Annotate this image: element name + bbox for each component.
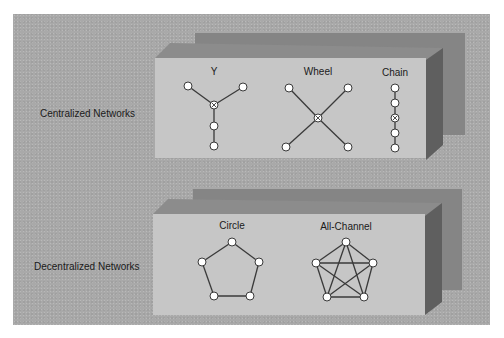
network-node (323, 293, 331, 301)
network-node (391, 84, 399, 92)
group-label-decentralized: Decentralized Networks (34, 261, 140, 272)
network-title-chain: Chain (382, 67, 408, 78)
network-node (391, 99, 399, 107)
network-node (210, 292, 218, 300)
network-node (282, 143, 290, 151)
centralized-box-side (426, 48, 443, 160)
network-node (198, 258, 206, 266)
network-node (210, 122, 218, 130)
decentralized-box-side (425, 203, 442, 315)
network-node (239, 83, 247, 91)
decentralized-box (153, 189, 462, 315)
network-node (312, 259, 320, 267)
network-node (369, 259, 377, 267)
network-node (391, 144, 399, 152)
network-node (342, 238, 350, 246)
network-title-wheel: Wheel (304, 66, 332, 77)
network-node (228, 238, 236, 246)
network-title-all-channel: All-Channel (320, 221, 372, 232)
network-node (184, 82, 192, 90)
group-label-centralized: Centralized Networks (40, 108, 135, 119)
network-title-y: Y (211, 66, 218, 77)
network-node (285, 84, 293, 92)
decentralized-box-front (153, 214, 425, 315)
network-node (246, 292, 254, 300)
network-node (255, 258, 263, 266)
network-title-circle: Circle (219, 220, 245, 231)
network-node (391, 129, 399, 137)
network-node (344, 84, 352, 92)
network-node (360, 293, 368, 301)
network-boxes (0, 0, 504, 338)
network-node (344, 143, 352, 151)
network-node (210, 142, 218, 150)
